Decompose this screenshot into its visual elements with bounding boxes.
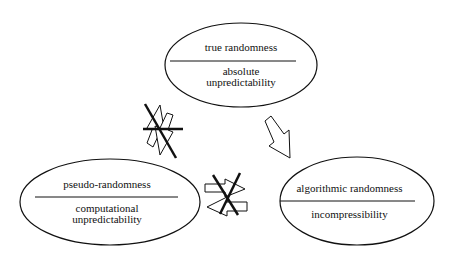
- node-algorithmic-subtitle-line1: incompressibility: [282, 209, 417, 220]
- crossed-bidirectional-arrow-true-pseudo: [143, 104, 183, 158]
- node-algorithmic-title: algorithmic randomness: [282, 183, 417, 194]
- node-pseudo-subtitle-line2: unpredictability: [36, 214, 178, 225]
- node-true-subtitle-line2: unpredictability: [171, 77, 311, 88]
- node-algorithmic-randomness: [280, 157, 434, 245]
- node-true-title: true randomness: [171, 42, 311, 53]
- node-pseudo-title: pseudo-randomness: [36, 179, 178, 190]
- crossed-bidirectional-arrow-pseudo-algorithmic: [205, 173, 247, 216]
- implication-arrow-true-algorithmic: [265, 116, 290, 158]
